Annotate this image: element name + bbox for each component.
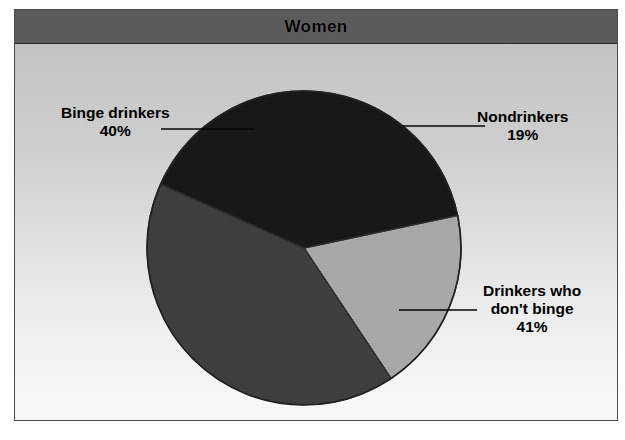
page-title: Women — [284, 17, 347, 37]
chart-figure: Women Binge drinkers 40% Nondrinkers 19% — [14, 9, 618, 421]
pie-label-drinkers-who-dont-binge: Drinkers who don't binge 41% — [483, 282, 581, 336]
pie-chart-plot-area: Binge drinkers 40% Nondrinkers 19% Drink… — [15, 44, 617, 420]
pie-label-drinkers-line2: don't binge — [483, 300, 581, 318]
pie-label-nondrinkers-text: Nondrinkers — [477, 108, 568, 125]
pie-label-drinkers-percent: 41% — [483, 318, 581, 336]
pie-label-binge-drinkers-percent: 40% — [61, 122, 170, 140]
pie-label-binge-drinkers: Binge drinkers 40% — [61, 104, 170, 140]
pie-label-nondrinkers-percent: 19% — [477, 126, 568, 144]
pie-label-nondrinkers: Nondrinkers 19% — [477, 108, 568, 144]
pie-chart-svg — [15, 44, 617, 420]
pie-label-drinkers-line1: Drinkers who — [483, 282, 581, 299]
chart-title-bar: Women — [15, 10, 617, 44]
pie-label-binge-drinkers-text: Binge drinkers — [61, 104, 170, 121]
